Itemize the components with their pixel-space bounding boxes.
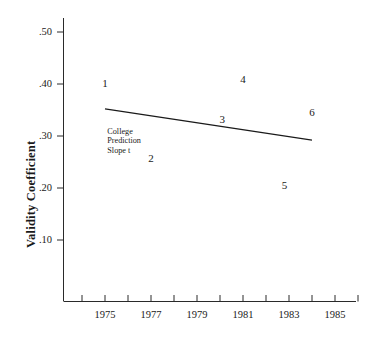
y-axis-tick-label: .10 [22,234,52,245]
annotation-line: College [107,127,141,137]
annotation-line: Slope t [107,146,141,156]
x-axis-tick-label: 1975 [83,309,127,320]
data-point-label: 3 [214,114,230,125]
x-axis-ticks [82,295,358,302]
y-axis-tick-label: .20 [22,182,52,193]
data-point-label: 1 [97,78,113,89]
y-axis-ticks [57,32,64,240]
data-point-label: 4 [235,74,251,85]
x-axis-tick-label: 1977 [129,309,173,320]
y-axis-tick-label: .30 [22,130,52,141]
trend-line-annotation: CollegePredictionSlope t [107,127,141,156]
annotation-line: Prediction [107,136,141,146]
y-axis-tick-label: .40 [22,78,52,89]
chart-figure: Validity Coefficient .50.40.30.20.10 197… [0,0,368,337]
data-point-label: 2 [143,153,159,164]
x-axis-tick-label: 1983 [267,309,311,320]
x-axis-tick-label: 1985 [313,309,357,320]
data-point-label: 5 [276,180,292,191]
data-point-label: 6 [304,107,320,118]
y-axis-tick-label: .50 [22,26,52,37]
chart-plot-area [0,0,368,337]
x-axis-tick-label: 1979 [175,309,219,320]
x-axis-tick-label: 1981 [221,309,265,320]
